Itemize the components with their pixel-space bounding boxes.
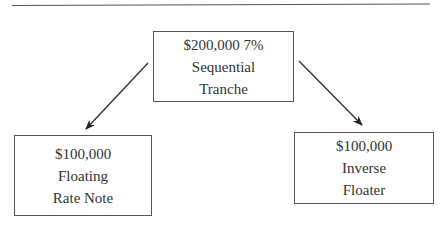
node-line: Inverse — [342, 157, 386, 179]
node-line: $200,000 7% — [184, 34, 264, 56]
node-line: Tranche — [199, 78, 248, 100]
node-line: Sequential — [192, 56, 255, 78]
diagram-canvas: $200,000 7% Sequential Tranche $100,000 … — [0, 0, 448, 226]
arrow-to-inverse — [299, 61, 362, 125]
node-line: $100,000 — [55, 143, 111, 165]
arrow-to-floater — [86, 63, 148, 129]
node-line: Rate Note — [53, 187, 113, 209]
node-line: Floater — [343, 179, 386, 201]
inverse-floater-box: $100,000 Inverse Floater — [294, 132, 434, 204]
floating-rate-note-box: $100,000 Floating Rate Note — [14, 135, 152, 216]
node-line: Floating — [58, 165, 108, 187]
node-line: $100,000 — [336, 135, 392, 157]
sequential-tranche-box: $200,000 7% Sequential Tranche — [153, 31, 294, 102]
